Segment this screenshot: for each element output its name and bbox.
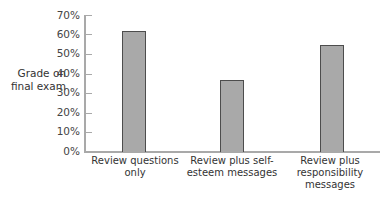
y-tick-mark <box>84 132 92 133</box>
label-line: only <box>80 167 190 179</box>
y-tick-label: 60% <box>52 28 80 40</box>
y-tick-label: 50% <box>52 47 80 59</box>
y-tick-mark <box>84 93 92 94</box>
bar-review-questions-only <box>122 31 146 152</box>
label-line: responsibility <box>275 167 385 179</box>
label-line: esteem messages <box>177 167 287 179</box>
y-tick-label: 40% <box>52 67 80 79</box>
label-line: Review plus self- <box>177 155 287 167</box>
x-category-label: Review plus responsibility messages <box>275 155 385 191</box>
x-category-label: Review plus self- esteem messages <box>177 155 287 179</box>
bar-review-plus-responsibility <box>320 45 344 152</box>
label-line: Review questions <box>80 155 190 167</box>
y-tick-label: 20% <box>52 106 80 118</box>
y-tick-mark <box>84 34 92 35</box>
label-line: messages <box>275 179 385 191</box>
y-tick-label: 10% <box>52 125 80 137</box>
y-tick-mark <box>84 15 92 16</box>
x-category-label: Review questions only <box>80 155 190 179</box>
label-line: Review plus <box>275 155 385 167</box>
y-tick-mark <box>84 113 92 114</box>
y-tick-label: 70% <box>52 9 80 21</box>
y-tick-label: 30% <box>52 86 80 98</box>
y-tick-mark <box>84 54 92 55</box>
y-tick-label: 0% <box>52 145 80 157</box>
bar-review-plus-self-esteem <box>220 80 244 152</box>
y-tick-mark <box>84 74 92 75</box>
